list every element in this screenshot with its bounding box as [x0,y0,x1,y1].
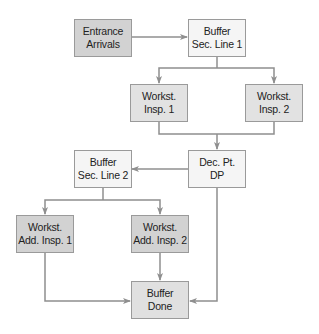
node-label-line2: Sec. Line 1 [192,38,242,51]
node-label-line1: Workst. [28,221,62,234]
node-workst-add-insp-2: Workst. Add. Insp. 2 [131,215,189,253]
node-buffer-sec-line-2: Buffer Sec. Line 2 [74,150,132,188]
node-label-line2: Arrivals [86,38,119,51]
node-label-line2: Add. Insp. 1 [18,234,72,247]
node-label-line1: Workst. [142,90,176,103]
node-label-line1: Buffer [147,287,174,300]
node-label-line1: Buffer [90,156,117,169]
node-workst-insp-2: Workst. Insp. 2 [245,84,303,122]
edge-buffer2-addinsp1 [45,200,103,214]
node-workst-add-insp-1: Workst. Add. Insp. 1 [16,215,74,253]
node-label-line1: Buffer [204,25,231,38]
node-buffer-done: Buffer Done [131,281,189,319]
node-entrance-arrivals: Entrance Arrivals [74,19,132,57]
node-label-line2: Insp. 2 [259,103,289,116]
node-label-line2: Sec. Line 2 [78,169,128,182]
node-workst-insp-1: Workst. Insp. 1 [130,84,188,122]
node-decision-point: Dec. Pt. DP [188,150,246,188]
edge-addinsp1-done [45,253,130,301]
edge-insp1-merge [159,122,217,134]
node-buffer-sec-line-1: Buffer Sec. Line 1 [188,19,246,57]
edge-insp2-merge [217,122,274,134]
node-label-line2: Insp. 1 [144,103,174,116]
flow-diagram: Entrance Arrivals Buffer Sec. Line 1 Wor… [0,0,319,334]
node-label-line1: Dec. Pt. [199,156,235,169]
node-label-line2: Done [148,300,172,313]
node-label-line1: Workst. [143,221,177,234]
edge-buffer2-addinsp2 [103,200,160,214]
node-label-line1: Entrance [83,25,123,38]
node-label-line2: Add. Insp. 2 [133,234,187,247]
edge-buffer1-insp1 [159,68,217,83]
node-label-line2: DP [210,169,224,182]
node-label-line1: Workst. [257,90,291,103]
edge-buffer1-insp2 [217,68,274,83]
edge-decision-done [190,188,217,301]
